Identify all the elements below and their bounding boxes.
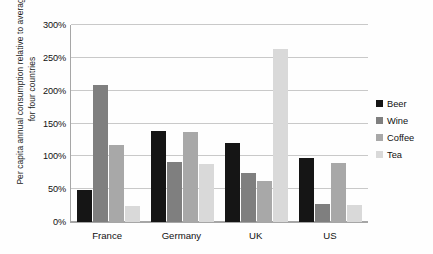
bar-group bbox=[145, 25, 219, 222]
bar-slot bbox=[347, 25, 362, 222]
bar-coffee-germany[interactable] bbox=[183, 132, 198, 222]
x-axis-tick-label: France bbox=[70, 230, 144, 241]
bar-slot bbox=[331, 25, 346, 222]
legend-swatch-icon bbox=[376, 134, 383, 141]
bar-slot bbox=[241, 25, 256, 222]
bar-tea-germany[interactable] bbox=[199, 164, 214, 222]
plot-area bbox=[70, 25, 368, 223]
chart-legend: BeerWineCoffeeTea bbox=[376, 95, 432, 163]
bar-slot bbox=[225, 25, 240, 222]
legend-swatch-icon bbox=[376, 117, 383, 124]
y-axis-tick-label: 300% bbox=[26, 20, 66, 30]
bar-wine-germany[interactable] bbox=[167, 162, 182, 222]
bar-coffee-france[interactable] bbox=[109, 145, 124, 222]
bar-wine-us[interactable] bbox=[315, 204, 330, 222]
legend-label: Beer bbox=[387, 99, 407, 109]
bar-tea-france[interactable] bbox=[125, 206, 140, 222]
bar-wine-uk[interactable] bbox=[241, 173, 256, 222]
legend-label: Coffee bbox=[387, 133, 414, 143]
y-axis-tick-label: 50% bbox=[26, 184, 66, 194]
legend-item-coffee[interactable]: Coffee bbox=[376, 129, 432, 146]
bar-group bbox=[71, 25, 145, 222]
bar-beer-us[interactable] bbox=[299, 158, 314, 222]
bars-layer bbox=[71, 25, 368, 222]
bar-slot bbox=[167, 25, 182, 222]
bar-wine-france[interactable] bbox=[93, 85, 108, 222]
y-axis-tick-label: 150% bbox=[26, 119, 66, 129]
bar-slot bbox=[183, 25, 198, 222]
bar-tea-us[interactable] bbox=[347, 205, 362, 222]
legend-label: Tea bbox=[387, 150, 402, 160]
bar-slot bbox=[109, 25, 124, 222]
bar-beer-germany[interactable] bbox=[151, 131, 166, 222]
legend-item-beer[interactable]: Beer bbox=[376, 95, 432, 112]
legend-swatch-icon bbox=[376, 100, 383, 107]
y-axis-tick-label: 200% bbox=[26, 86, 66, 96]
y-axis-tick-label: 0% bbox=[26, 217, 66, 227]
bar-slot bbox=[93, 25, 108, 222]
bar-slot bbox=[77, 25, 92, 222]
x-axis-tick-label: US bbox=[293, 230, 367, 241]
legend-swatch-icon bbox=[376, 151, 383, 158]
bar-group bbox=[294, 25, 368, 222]
y-axis-tick-label: 250% bbox=[26, 53, 66, 63]
bar-slot bbox=[151, 25, 166, 222]
y-axis-tick-labels: 0%50%100%150%200%250%300% bbox=[26, 25, 66, 222]
bar-coffee-uk[interactable] bbox=[257, 181, 272, 222]
legend-label: Wine bbox=[387, 116, 408, 126]
x-axis-tick-label: UK bbox=[219, 230, 293, 241]
bar-chart: Per capita annual consumption relative t… bbox=[0, 0, 433, 254]
x-axis-tick-labels: FranceGermanyUKUS bbox=[70, 230, 367, 241]
bar-beer-uk[interactable] bbox=[225, 143, 240, 222]
bar-slot bbox=[299, 25, 314, 222]
bar-tea-uk[interactable] bbox=[273, 49, 288, 222]
bar-coffee-us[interactable] bbox=[331, 163, 346, 222]
bar-slot bbox=[257, 25, 272, 222]
bar-slot bbox=[199, 25, 214, 222]
bar-group bbox=[220, 25, 294, 222]
y-axis-tick-label: 100% bbox=[26, 151, 66, 161]
legend-item-wine[interactable]: Wine bbox=[376, 112, 432, 129]
bar-slot bbox=[315, 25, 330, 222]
legend-item-tea[interactable]: Tea bbox=[376, 146, 432, 163]
bar-beer-france[interactable] bbox=[77, 190, 92, 222]
bar-slot bbox=[273, 25, 288, 222]
x-axis-tick-label: Germany bbox=[144, 230, 218, 241]
bar-slot bbox=[125, 25, 140, 222]
